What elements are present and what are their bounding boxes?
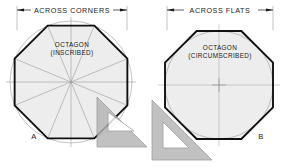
octagon-construction-figure: ACROSS CORNERS OCTAGON (INSCRIBED) A AC (0, 0, 293, 168)
panel-key-b: B (258, 132, 263, 141)
dimension-label-across-corners: ACROSS CORNERS (34, 6, 110, 15)
octagon-caption-line2: (INSCRIBED) (51, 49, 94, 57)
octagon-caption-line1: OCTAGON (203, 44, 237, 51)
octagon-caption-line2: (CIRCUMSCRIBED) (188, 52, 251, 60)
dimension-label-across-flats: ACROSS FLATS (190, 6, 251, 15)
octagon-caption-line1: OCTAGON (55, 41, 89, 48)
panel-key-a: A (31, 132, 36, 141)
